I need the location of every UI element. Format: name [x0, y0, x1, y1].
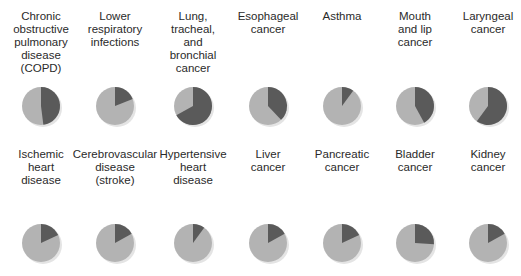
pie-chart	[244, 82, 292, 130]
pie-chart	[169, 219, 217, 267]
pie-chart	[391, 82, 439, 130]
pie-chart	[464, 219, 512, 267]
pie-chart	[318, 82, 366, 130]
pie-slice-dark	[415, 224, 434, 244]
pie-chart	[244, 219, 292, 267]
pie-chart	[91, 219, 139, 267]
pie-chart	[391, 219, 439, 267]
pie-label: Kidney cancer	[431, 148, 521, 174]
pie-chart	[318, 219, 366, 267]
pie-label: Laryngeal cancer	[431, 10, 521, 36]
pie-chart	[169, 82, 217, 130]
pie-chart	[464, 82, 512, 130]
pie-chart	[17, 219, 65, 267]
pie-chart	[91, 82, 139, 130]
pie-chart	[17, 82, 65, 130]
